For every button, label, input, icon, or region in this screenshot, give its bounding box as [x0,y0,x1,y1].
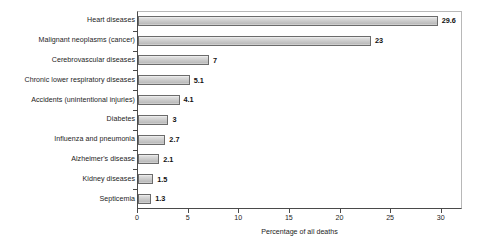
bar [138,135,165,145]
x-axis-tick [289,209,290,213]
bar-group: 1.3 [138,189,165,209]
bar-chart: Heart diseases29.6Malignant neoplasms (c… [0,0,484,248]
bar-group: 2.7 [138,130,179,150]
bar-group: 1.5 [138,169,167,189]
bar [138,194,151,204]
y-axis-tick [133,70,137,71]
y-axis-tick [133,130,137,131]
y-axis-tick [133,189,137,190]
chart-row: Chronic lower respiratory diseases5.1 [0,70,484,90]
bar-value-label: 3 [172,116,176,123]
x-axis-title: Percentage of all deaths [137,229,462,236]
bar-value-label: 2.7 [169,136,179,143]
category-label: Septicemia [0,196,135,203]
chart-row: Kidney diseases1.5 [0,169,484,189]
category-label: Accidents (unintentional injuries) [0,97,135,104]
y-axis-tick [133,110,137,111]
bar-group: 23 [138,31,383,51]
chart-row: Influenza and pneumonia2.7 [0,130,484,150]
bar [138,75,190,85]
x-axis-tick-label: 0 [135,215,139,222]
y-axis-tick [133,150,137,151]
category-label: Influenza and pneumonia [0,136,135,143]
bar-value-label: 29.6 [442,17,456,24]
x-axis-tick [238,209,239,213]
category-label: Cerebrovascular diseases [0,57,135,64]
chart-row: Septicemia1.3 [0,189,484,209]
x-axis-tick [137,209,138,213]
chart-row: Heart diseases29.6 [0,11,484,31]
x-axis-tick-label: 15 [285,215,293,222]
bar-group: 4.1 [138,90,194,110]
x-axis: Percentage of all deaths 051015202530 [137,209,462,248]
x-axis-tick [188,209,189,213]
bar [138,55,209,65]
chart-row: Accidents (unintentional injuries)4.1 [0,90,484,110]
y-axis-tick [133,51,137,52]
category-label: Heart diseases [0,17,135,24]
bar-group: 29.6 [138,11,456,31]
x-axis-tick [340,209,341,213]
bar [138,115,168,125]
category-label: Alzheimer's disease [0,156,135,163]
bar [138,95,180,105]
chart-rows: Heart diseases29.6Malignant neoplasms (c… [0,11,484,209]
x-axis-tick-label: 30 [437,215,445,222]
category-label: Malignant neoplasms (cancer) [0,37,135,44]
bar-value-label: 5.1 [194,77,204,84]
category-label: Kidney diseases [0,176,135,183]
chart-row: Malignant neoplasms (cancer)23 [0,31,484,51]
bar [138,16,438,26]
x-axis-tick-label: 20 [336,215,344,222]
bar-group: 7 [138,51,217,71]
bar-group: 2.1 [138,150,173,170]
chart-row: Diabetes3 [0,110,484,130]
bar-value-label: 7 [213,57,217,64]
y-axis-tick [133,169,137,170]
chart-row: Cerebrovascular diseases7 [0,51,484,71]
y-axis-tick [133,31,137,32]
bar [138,154,159,164]
x-axis-tick-label: 10 [234,215,242,222]
bar-value-label: 23 [375,37,383,44]
bar-group: 5.1 [138,70,204,90]
bar-value-label: 1.5 [157,176,167,183]
chart-row: Alzheimer's disease2.1 [0,150,484,170]
y-axis-tick [133,90,137,91]
bar-value-label: 4.1 [184,96,194,103]
x-axis-tick-label: 5 [186,215,190,222]
bar-value-label: 1.3 [155,195,165,202]
bar [138,174,153,184]
x-axis-tick [441,209,442,213]
bar-value-label: 2.1 [163,156,173,163]
category-label: Chronic lower respiratory diseases [0,77,135,84]
category-label: Diabetes [0,116,135,123]
x-axis-tick [390,209,391,213]
bar-group: 3 [138,110,176,130]
x-axis-tick-label: 25 [386,215,394,222]
bar [138,36,371,46]
